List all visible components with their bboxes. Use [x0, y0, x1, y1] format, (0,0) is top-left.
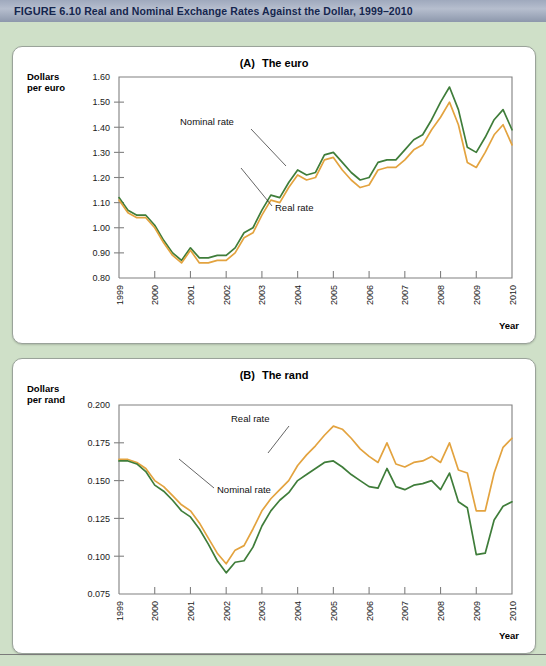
y-tick-label: 0.100 [87, 552, 110, 562]
x-tick-label: 2000 [150, 601, 160, 621]
figure-title: Real and Nominal Exchange Rates Against … [84, 5, 412, 17]
x-tick-label: 2009 [472, 601, 482, 621]
x-tick-label: 2007 [400, 285, 410, 305]
figure-caption: FIGURE 6.10 Real and Nominal Exchange Ra… [0, 5, 413, 17]
series-line-real-rate [119, 426, 512, 564]
annotation-label: Nominal rate [217, 484, 271, 495]
y-tick-label: 0.075 [87, 589, 110, 599]
x-tick-label: 2010 [508, 285, 518, 305]
y-tick-label: 0.200 [87, 400, 110, 410]
x-tick-label: 1999 [115, 285, 125, 305]
x-tick-label: 2003 [257, 285, 267, 305]
series-line-nominal-rate [119, 461, 512, 573]
y-tick-label: 1.60 [92, 72, 110, 82]
x-tick-label: 2006 [365, 601, 375, 621]
x-tick-label: 2000 [150, 285, 160, 305]
series-line-real-rate [119, 102, 512, 263]
x-tick-label: 2010 [508, 601, 518, 621]
x-tick-label: 2007 [400, 601, 410, 621]
annotation-label: Real rate [275, 202, 314, 213]
x-tick-label: 1999 [115, 601, 125, 621]
x-tick-label: 2001 [186, 601, 196, 621]
y-tick-label: 1.00 [92, 223, 110, 233]
x-tick-label: 2003 [257, 601, 267, 621]
x-tick-label: 2004 [293, 285, 303, 305]
figure-number: FIGURE 6.10 [14, 5, 81, 17]
chart-canvas-euro: 1.601.501.401.301.201.101.000.900.801999… [13, 47, 535, 343]
chart-panel-rand: (B)The rand Dollars per rand Year 0.2000… [12, 358, 536, 654]
y-tick-label: 0.90 [92, 248, 110, 258]
y-tick-label: 0.125 [87, 514, 110, 524]
y-tick-label: 0.80 [92, 273, 110, 283]
chart-panel-euro: (A)The euro Dollars per euro Year 1.601.… [12, 46, 536, 344]
y-tick-label: 1.20 [92, 173, 110, 183]
x-tick-label: 2008 [436, 601, 446, 621]
figure-banner: FIGURE 6.10 Real and Nominal Exchange Ra… [0, 0, 546, 22]
x-tick-label: 2002 [222, 601, 232, 621]
x-tick-label: 2004 [293, 601, 303, 621]
x-tick-label: 2002 [222, 285, 232, 305]
x-tick-label: 2001 [186, 285, 196, 305]
x-tick-label: 2005 [329, 601, 339, 621]
page-bottom-caption [0, 656, 546, 666]
y-tick-label: 1.30 [92, 148, 110, 158]
y-tick-label: 1.50 [92, 97, 110, 107]
y-tick-label: 0.150 [87, 476, 110, 486]
x-tick-label: 2008 [436, 285, 446, 305]
x-tick-label: 2005 [329, 285, 339, 305]
x-tick-label: 2009 [472, 285, 482, 305]
page-bottom-rule [0, 654, 546, 655]
annotation-label: Real rate [231, 413, 270, 424]
x-tick-label: 2006 [365, 285, 375, 305]
chart-canvas-rand: 0.2000.1750.1500.1250.1000.0751999200020… [13, 359, 535, 653]
y-tick-label: 0.175 [87, 438, 110, 448]
annotation-label: Nominal rate [180, 116, 234, 127]
y-tick-label: 1.10 [92, 198, 110, 208]
y-tick-label: 1.40 [92, 123, 110, 133]
